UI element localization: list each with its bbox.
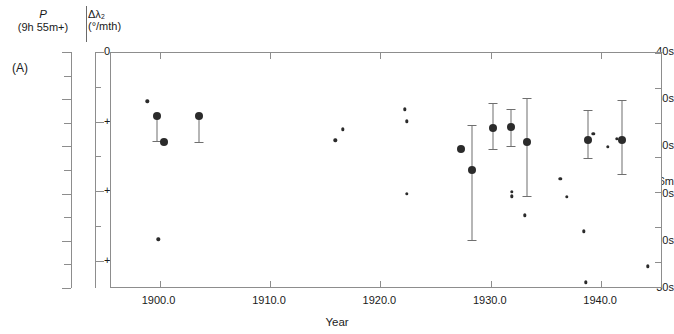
delta-lambda-tick xyxy=(95,52,104,53)
left-axis-title: P (9h 55m+) xyxy=(0,8,86,33)
x-tick xyxy=(491,281,492,287)
left-axis-title-line2: (9h 55m+) xyxy=(0,21,86,33)
period-tick xyxy=(64,123,71,124)
error-bar-cap-upper xyxy=(506,109,515,110)
delta-lambda-tick xyxy=(95,261,104,262)
period-tick xyxy=(64,170,71,171)
data-point xyxy=(606,145,609,148)
x-tick-top xyxy=(491,53,492,59)
data-point xyxy=(618,136,626,144)
period-tick xyxy=(62,146,71,147)
period-tick xyxy=(62,52,71,53)
plot-area xyxy=(110,52,662,288)
delta-lambda-tick xyxy=(95,87,101,88)
data-point xyxy=(582,230,585,233)
data-point xyxy=(153,112,161,120)
data-point xyxy=(507,123,515,131)
data-point xyxy=(510,190,513,193)
right-edge-tick xyxy=(655,227,661,228)
data-point xyxy=(523,138,531,146)
panel-label: (A) xyxy=(12,62,28,75)
right-edge-tick xyxy=(655,88,661,89)
data-point xyxy=(457,145,465,153)
error-bar xyxy=(527,98,528,195)
x-axis-title: Year xyxy=(0,316,674,328)
error-bar-cap-lower xyxy=(195,142,204,143)
data-point xyxy=(559,177,562,180)
figure-panel: P (9h 55m+) Δλ₂ (°/mth) (A) 40s50s60s56m… xyxy=(0,0,674,334)
period-tick xyxy=(62,194,71,195)
error-bar-cap-lower xyxy=(523,196,532,197)
delta-lambda-tick xyxy=(95,122,104,123)
period-axis-spine xyxy=(71,52,72,288)
error-bar-cap-lower xyxy=(506,146,515,147)
delta-lambda-tick xyxy=(95,156,101,157)
x-tick xyxy=(160,281,161,287)
error-bar-cap-lower xyxy=(618,174,627,175)
x-tick-top xyxy=(601,53,602,59)
data-point xyxy=(157,238,160,241)
right-axis-title-line2: (°/mth) xyxy=(88,20,154,32)
data-point xyxy=(405,192,408,195)
error-bar-cap-upper xyxy=(618,100,627,101)
axis-title-divider xyxy=(86,6,87,42)
x-tick-top xyxy=(160,53,161,59)
period-tick xyxy=(64,76,71,77)
error-bar-cap-lower xyxy=(583,158,592,159)
left-axis-title-line1: P xyxy=(0,8,86,21)
right-edge-tick xyxy=(655,53,661,54)
error-bar-cap-upper xyxy=(488,103,497,104)
x-tick-top xyxy=(380,53,381,59)
error-bar-cap-lower xyxy=(468,240,477,241)
delta-lambda-tick xyxy=(95,191,104,192)
x-tick xyxy=(380,281,381,287)
right-axis-title: Δλ₂ (°/mth) xyxy=(88,8,154,32)
error-bar xyxy=(472,125,473,241)
data-point xyxy=(333,139,336,142)
x-tick xyxy=(270,281,271,287)
data-point xyxy=(584,281,587,284)
data-point xyxy=(468,166,476,174)
period-tick xyxy=(62,288,71,289)
data-point xyxy=(195,112,203,120)
error-bar-cap-upper xyxy=(583,110,592,111)
data-point xyxy=(489,124,497,132)
right-edge-tick xyxy=(655,262,661,263)
x-tick-label: 1900.0 xyxy=(142,294,176,306)
data-point xyxy=(510,195,513,198)
right-edge-tick xyxy=(655,123,661,124)
data-point xyxy=(160,138,168,146)
x-tick xyxy=(601,281,602,287)
data-point xyxy=(592,132,595,135)
data-point xyxy=(523,214,526,217)
period-tick xyxy=(64,217,71,218)
data-point xyxy=(403,107,406,110)
right-axis-title-line1: Δλ₂ xyxy=(88,8,154,20)
error-bar-cap-upper xyxy=(523,98,532,99)
x-tick-top xyxy=(270,53,271,59)
x-tick-label: 1940.0 xyxy=(583,294,617,306)
x-tick-label: 1910.0 xyxy=(252,294,286,306)
period-tick xyxy=(62,241,71,242)
data-point xyxy=(146,99,149,102)
data-point xyxy=(565,195,568,198)
x-tick-label: 1930.0 xyxy=(473,294,507,306)
error-bar-cap-upper xyxy=(468,125,477,126)
delta-lambda-tick xyxy=(95,226,101,227)
data-point xyxy=(341,128,344,131)
data-point xyxy=(646,265,649,268)
right-edge-tick xyxy=(655,192,661,193)
error-bar xyxy=(587,110,588,159)
data-point xyxy=(584,136,592,144)
right-edge-tick xyxy=(655,157,661,158)
period-tick xyxy=(64,264,71,265)
data-point xyxy=(405,120,408,123)
error-bar-cap-lower xyxy=(488,149,497,150)
period-tick xyxy=(62,99,71,100)
x-tick-label: 1920.0 xyxy=(363,294,397,306)
